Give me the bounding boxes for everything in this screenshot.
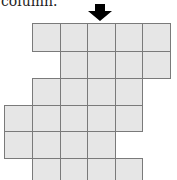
grid-cell [60, 158, 88, 180]
grid-cell [87, 105, 116, 132]
grid-cell [60, 78, 88, 106]
grid-cell [142, 23, 171, 52]
grid-cell [87, 131, 116, 159]
grid-cell [32, 78, 61, 106]
grid-cell [60, 105, 88, 132]
grid-cell [142, 51, 171, 79]
grid-cell [60, 23, 88, 52]
grid-cell [115, 158, 143, 180]
grid-cell [4, 105, 33, 132]
grid-cell [115, 23, 143, 52]
grid-cell [32, 158, 61, 180]
grid-cell [87, 51, 116, 79]
grid-cell [115, 51, 143, 79]
grid-cell [115, 78, 143, 106]
grid-cell [60, 51, 88, 79]
grid-cell [115, 105, 143, 132]
grid-cell [32, 105, 61, 132]
grid-cell [87, 78, 116, 106]
grid-cell [32, 23, 61, 52]
grid-cell [87, 23, 116, 52]
grid-cell [32, 131, 61, 159]
grid-shape [0, 0, 177, 180]
grid-cell [4, 131, 33, 159]
grid-cell [60, 131, 88, 159]
grid-cell [87, 158, 116, 180]
